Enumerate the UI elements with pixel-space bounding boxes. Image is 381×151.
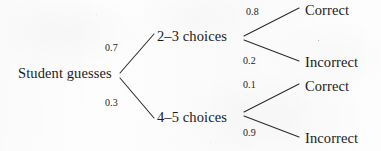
root-node-label: Student guesses	[18, 66, 112, 81]
tree-diagram-canvas: Student guesses 0.7 0.3 2–3 choices 4–5 …	[0, 0, 381, 151]
probability-label-root-to-four-five: 0.3	[105, 98, 118, 108]
leaf-label-two-three-incorrect: Incorrect	[305, 55, 358, 70]
scan-speck	[210, 142, 211, 143]
probability-label-two-three-to-incorrect: 0.2	[243, 56, 256, 66]
probability-label-root-to-two-three: 0.7	[105, 43, 118, 53]
scan-speck	[318, 40, 319, 41]
edge-root-to-four-five	[120, 78, 154, 118]
leaf-label-four-five-incorrect: Incorrect	[305, 131, 358, 146]
node-label-four-five-choices: 4–5 choices	[157, 110, 227, 125]
probability-label-two-three-to-correct: 0.8	[246, 7, 259, 17]
leaf-label-two-three-correct: Correct	[305, 3, 349, 18]
leaf-label-four-five-correct: Correct	[305, 79, 349, 94]
node-label-two-three-choices: 2–3 choices	[157, 29, 227, 44]
probability-label-four-five-to-incorrect: 0.9	[243, 128, 256, 138]
probability-label-four-five-to-correct: 0.1	[243, 80, 256, 90]
edge-root-to-two-three	[120, 34, 154, 73]
scan-speck	[96, 14, 97, 15]
